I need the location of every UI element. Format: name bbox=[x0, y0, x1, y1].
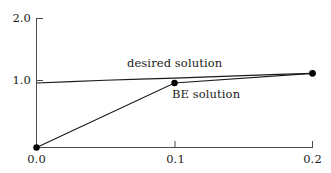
x-axis-tick-label-2: 0.2 bbox=[292, 152, 331, 166]
chart-figure: 2.0 1.0 0.0 0.1 0.2 desired solution BE … bbox=[0, 0, 331, 173]
y-axis-tick-label-1: 1.0 bbox=[0, 73, 31, 87]
marker-be-midpoint bbox=[171, 80, 177, 86]
x-axis-tick-label-1: 0.1 bbox=[155, 152, 196, 166]
marker-endpoint bbox=[309, 70, 316, 77]
y-axis-tick-label-2: 2.0 bbox=[0, 11, 31, 25]
marker-origin bbox=[33, 144, 39, 150]
annotation-be-solution: BE solution bbox=[172, 87, 240, 101]
x-axis-tick-label-0: 0.0 bbox=[16, 152, 57, 166]
annotation-desired-solution: desired solution bbox=[127, 56, 222, 70]
plot-area bbox=[0, 0, 331, 173]
